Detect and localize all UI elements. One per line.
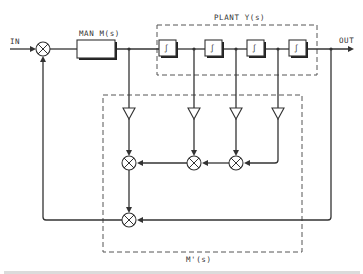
multiplier-3-icon [229, 156, 243, 170]
input-summing-junction-icon [36, 42, 50, 56]
integral-icon: ∫ [210, 44, 215, 53]
integrator-2: ∫ [205, 40, 224, 58]
gain-2-icon [188, 108, 200, 119]
arrow-icon [126, 207, 132, 213]
arrow-icon [40, 56, 46, 62]
plant-label: PLANT Y(s) [214, 13, 265, 22]
arrow-icon [244, 160, 250, 166]
multiplier-1-icon [122, 156, 136, 170]
block-diagram: IN OUT MAN M(s) PLANT Y(s) M'(s) [0, 0, 363, 274]
output-label: OUT [339, 36, 354, 45]
input-arrow-icon [30, 46, 36, 52]
output-arrow-icon [348, 46, 354, 52]
model-label: M'(s) [186, 255, 212, 264]
arrow-icon [137, 160, 143, 166]
gain-4-icon [272, 108, 284, 119]
gain-1-icon [123, 108, 135, 119]
arrow-icon [191, 150, 197, 156]
integrator-4: ∫ [289, 40, 308, 58]
model-group-box [103, 95, 302, 252]
wire [246, 119, 278, 163]
integral-icon: ∫ [252, 44, 257, 53]
man-block [77, 40, 115, 58]
integral-icon: ∫ [294, 44, 299, 53]
arrow-icon [126, 150, 132, 156]
arrow-icon [233, 150, 239, 156]
integrator-1: ∫ [159, 40, 178, 58]
diagram-svg: IN OUT MAN M(s) PLANT Y(s) M'(s) [0, 0, 363, 274]
multiplier-4-icon [122, 213, 136, 227]
integral-icon: ∫ [164, 44, 169, 53]
controller-label: MAN M(s) [79, 29, 120, 38]
arrow-icon [137, 217, 143, 223]
arrow-icon [202, 160, 208, 166]
input-label: IN [10, 37, 20, 46]
integrator-3: ∫ [247, 40, 266, 58]
main-feedback-wire [43, 58, 122, 220]
gain-3-icon [230, 108, 242, 119]
multiplier-2-icon [187, 156, 201, 170]
